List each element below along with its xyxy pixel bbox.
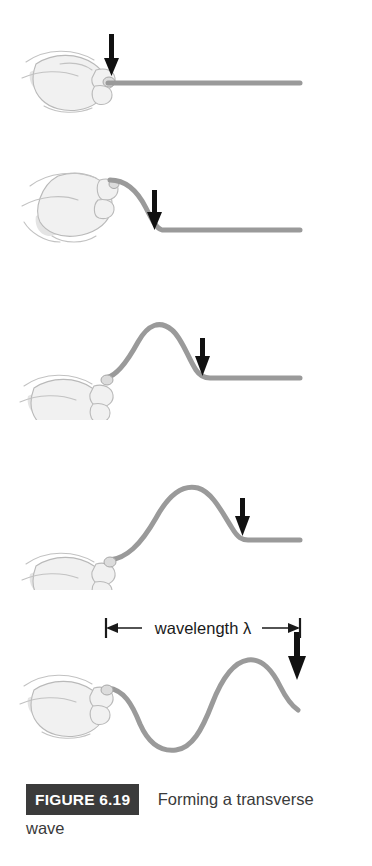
caption-text-line2: wave [26,819,366,838]
panel-hand-raised [0,160,372,275]
hand-illustration [22,553,116,590]
rope-path [108,660,298,750]
hand-illustration [20,675,113,738]
panel-pulse-travelling [0,440,372,590]
wavelength-right-arrowhead-icon [288,623,300,633]
rope-path [110,487,300,560]
hand-illustration [20,375,113,420]
wavelength-left-arrowhead-icon [106,623,118,633]
hand-illustration [22,173,119,242]
wavelength-text: wavelength λ [154,619,252,637]
panel-pulse-formed [0,290,372,420]
wave-panel-stack [0,0,372,770]
figure-container: wavelength λ FIGURE 6.19 Forming a trans… [0,0,372,866]
hand-illustration [22,51,115,112]
figure-caption: FIGURE 6.19 Forming a transverse wave [26,784,366,838]
caption-first-line: FIGURE 6.19 Forming a transverse [26,784,366,815]
caption-text-line1: Forming a transverse [158,787,314,812]
figure-number-badge: FIGURE 6.19 [26,784,139,815]
wavelength-annotation: wavelength λ [0,612,372,642]
rope-path [110,180,300,230]
force-arrow-down-icon [235,498,250,536]
panel-rope-flat [0,20,372,130]
